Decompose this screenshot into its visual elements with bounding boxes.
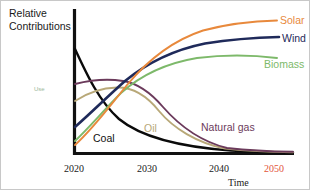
line-chart-canvas: Relative Contributions Use Solar Wind Bi…	[1, 1, 310, 190]
x-tick-label-2020: 2020	[64, 163, 84, 174]
series-label-oil: Oil	[144, 122, 157, 134]
x-tick-label-2040: 2040	[209, 163, 229, 174]
series-label-coal: Coal	[93, 132, 115, 144]
y-axis-title-line2: Contributions	[9, 20, 71, 32]
chart-figure: Relative Contributions Use Solar Wind Bi…	[0, 0, 310, 190]
x-axis-title: Time	[228, 177, 249, 188]
series-label-wind: Wind	[282, 32, 306, 44]
series-label-biomass: Biomass	[264, 58, 304, 70]
y-axis-title-line1: Relative	[9, 7, 47, 19]
x-tick-label-2050: 2050	[264, 163, 284, 174]
series-label-natural-gas: Natural gas	[201, 121, 255, 133]
use-annotation-label: Use	[34, 86, 45, 92]
curve-wind	[75, 37, 279, 127]
series-label-solar: Solar	[280, 14, 305, 26]
x-tick-label-2030: 2030	[137, 163, 157, 174]
